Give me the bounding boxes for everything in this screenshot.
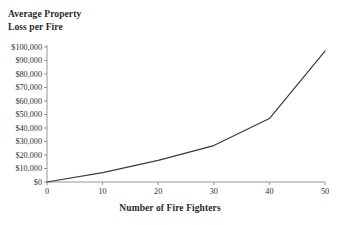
y-tick-label: $10,000 xyxy=(15,164,42,173)
y-tick-label: $0 xyxy=(34,178,42,187)
x-tick-label: 30 xyxy=(210,187,218,196)
x-tick-label: 50 xyxy=(321,187,329,196)
chart-container: Average Property Loss per Fire $0$10,000… xyxy=(0,0,340,225)
y-tick-label: $50,000 xyxy=(15,110,42,119)
x-tick-label: 10 xyxy=(99,187,107,196)
y-tick-label: $100,000 xyxy=(11,43,42,52)
y-axis-tick-labels: $0$10,000$20,000$30,000$40,000$50,000$60… xyxy=(11,43,42,187)
y-tick-label: $60,000 xyxy=(15,97,42,106)
y-tick-label: $30,000 xyxy=(15,137,42,146)
y-tick-label: $80,000 xyxy=(15,70,42,79)
y-tick-label: $70,000 xyxy=(15,83,42,92)
line-chart-plot: $0$10,000$20,000$30,000$40,000$50,000$60… xyxy=(0,0,340,225)
data-series-line xyxy=(47,51,325,182)
y-tick-label: $90,000 xyxy=(15,56,42,65)
axis-tick-marks xyxy=(44,47,325,185)
x-tick-label: 20 xyxy=(154,187,162,196)
y-tick-label: $20,000 xyxy=(15,151,42,160)
x-tick-label: 0 xyxy=(45,187,49,196)
x-axis-tick-labels: 01020304050 xyxy=(45,187,329,196)
x-axis-title: Number of Fire Fighters xyxy=(0,203,340,213)
y-tick-label: $40,000 xyxy=(15,124,42,133)
x-tick-label: 40 xyxy=(265,187,273,196)
